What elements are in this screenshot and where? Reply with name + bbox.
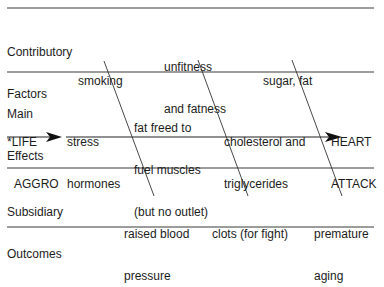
effect-text: cholesterol and (224, 135, 305, 149)
outcome-text: aging (314, 269, 369, 283)
effect-text: fat freed to (134, 121, 208, 135)
effect-text: stress (67, 135, 120, 149)
subsidiary-outcome-clots: clots (for fight) (212, 199, 288, 269)
outcome-text: raised blood (124, 227, 189, 241)
factor-text: sugar, fat (263, 74, 312, 88)
contributory-factor-smoking: smoking (78, 46, 123, 116)
start-label-line: *LIFE (7, 135, 59, 149)
end-label-line: ATTACK (331, 177, 377, 191)
subsidiary-outcome-blood-pressure: raised blood pressure (124, 199, 189, 287)
effect-text: fuel muscles (134, 163, 208, 177)
end-label-line: HEART (331, 135, 377, 149)
effect-text: triglycerides (224, 177, 305, 191)
contributory-factor-sugar-fat: sugar, fat (263, 46, 312, 116)
factor-text: smoking (78, 74, 123, 88)
subsidiary-outcome-aging: premature aging (314, 199, 369, 287)
outcome-text: pressure (124, 269, 189, 283)
main-effect-stress-hormones: stress hormones (67, 107, 120, 219)
row-label-line: Outcomes (7, 247, 63, 261)
outcome-text: clots (for fight) (212, 227, 288, 241)
outcome-text: premature (314, 227, 369, 241)
factor-text: unfitness (164, 60, 226, 74)
row-label-line: Contributory (7, 45, 72, 59)
row-label-line: Subsidiary (7, 205, 63, 219)
row-label-subsidiary: Subsidiary Outcomes (7, 177, 63, 287)
effect-text: hormones (67, 177, 120, 191)
